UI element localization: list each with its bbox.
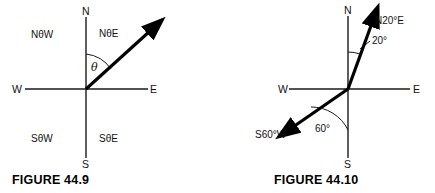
quadrant-label-northwest: NθW bbox=[31, 30, 53, 40]
n20e-vector-label: N20°E bbox=[375, 16, 404, 26]
figure-44-10-diagram bbox=[217, 0, 435, 193]
axis-label-south: S bbox=[82, 159, 89, 170]
axis-label-west: W bbox=[278, 84, 288, 95]
twenty-degree-label: 20° bbox=[372, 36, 387, 46]
n20e-vector bbox=[348, 23, 372, 89]
quadrant-label-northeast: NθE bbox=[99, 29, 118, 39]
theta-angle-label: θ bbox=[91, 62, 98, 73]
figure-caption: FIGURE 44.10 bbox=[274, 173, 358, 187]
sixty-degree-label: 60° bbox=[315, 124, 330, 134]
s60w-vector-label: S60°W bbox=[255, 130, 286, 140]
axis-label-east: E bbox=[413, 84, 420, 95]
theta-angle-arc bbox=[86, 54, 111, 69]
axis-label-east: E bbox=[150, 84, 157, 95]
axis-label-north: N bbox=[344, 5, 352, 16]
figure-44-10: N S E W N20°E 20° S60°W 60° FIGURE 44.10 bbox=[217, 0, 435, 193]
s60w-vector bbox=[293, 89, 348, 127]
bearing-vector bbox=[86, 31, 150, 89]
quadrant-label-southwest: SθW bbox=[31, 134, 53, 144]
axis-label-south: S bbox=[344, 159, 351, 170]
quadrant-label-southeast: SθE bbox=[99, 134, 118, 144]
figure-44-9: N S E W NθW NθE SθW SθE θ FIGURE 44.9 bbox=[0, 0, 217, 193]
figure-page: N S E W NθW NθE SθW SθE θ FIGURE 44.9 bbox=[0, 0, 435, 193]
axis-label-west: W bbox=[12, 84, 22, 95]
figure-caption: FIGURE 44.9 bbox=[12, 173, 89, 187]
axis-label-north: N bbox=[82, 6, 90, 17]
twenty-degree-arc bbox=[348, 52, 360, 54]
